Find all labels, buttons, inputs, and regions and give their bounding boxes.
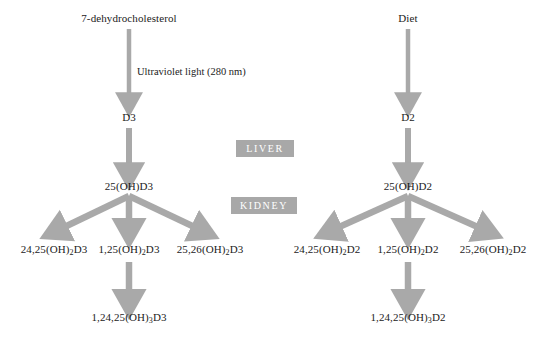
- node-2425oh2d3-sub: 2: [70, 248, 74, 257]
- node-12425oh3d2-suffix: D2: [432, 311, 446, 323]
- node-2526oh2d3: 25,26(OH)2D3: [177, 243, 244, 257]
- arrow-25ohd3-to-2425ohd3: [54, 196, 129, 232]
- node-d3: D3: [122, 111, 136, 124]
- node-125oh2d3-sub: 2: [142, 248, 146, 257]
- node-125oh2d2: 1,25(OH)2D2: [377, 243, 438, 257]
- node-2526oh2d3-prefix: 25,26(OH): [177, 243, 226, 255]
- node-d2: D2: [401, 111, 415, 124]
- arrow-25ohd2-to-2526ohd2: [408, 196, 489, 232]
- node-125oh2d3-prefix: 1,25(OH): [98, 243, 141, 255]
- node-125oh2d3-suffix: D3: [146, 243, 160, 255]
- arrow-25ohd2-to-2425ohd2: [328, 196, 408, 232]
- vitamin-d-pathway-diagram: 7-dehydrocholesterol Ultraviolet light (…: [0, 0, 537, 337]
- organ-box-kidney: KIDNEY: [231, 197, 297, 214]
- node-25ohd2: 25(OH)D2: [384, 180, 432, 193]
- node-2526oh2d2: 25,26(OH)2D2: [460, 243, 527, 257]
- node-2425oh2d2-sub: 2: [343, 248, 347, 257]
- node-12425oh3d3: 1,24,25(OH)3D3: [91, 311, 166, 325]
- node-125oh2d2-prefix: 1,25(OH): [377, 243, 420, 255]
- node-125oh2d2-sub: 2: [421, 248, 425, 257]
- node-2526oh2d2-suffix: D2: [513, 243, 527, 255]
- node-2526oh2d2-prefix: 25,26(OH): [460, 243, 509, 255]
- organ-box-liver: LIVER: [236, 140, 294, 157]
- node-2425oh2d2: 24,25(OH)2D2: [294, 243, 361, 257]
- node-12425oh3d2-prefix: 1,24,25(OH): [370, 311, 427, 323]
- annotation-ultraviolet-light: Ultraviolet light (280 nm): [137, 65, 246, 78]
- node-12425oh3d3-sub: 3: [149, 316, 153, 325]
- node-12425oh3d2-sub: 3: [428, 316, 432, 325]
- node-7-dehydrocholesterol: 7-dehydrocholesterol: [81, 12, 176, 25]
- node-2526oh2d3-sub: 2: [226, 248, 230, 257]
- node-12425oh3d2: 1,24,25(OH)3D2: [370, 311, 445, 325]
- arrow-25ohd3-to-2526ohd3: [129, 196, 205, 232]
- node-2425oh2d2-suffix: D2: [347, 243, 361, 255]
- arrow-layer: [0, 0, 537, 337]
- node-2425oh2d3: 24,25(OH)2D3: [21, 243, 88, 257]
- node-2425oh2d3-prefix: 24,25(OH): [21, 243, 70, 255]
- node-2526oh2d3-suffix: D3: [230, 243, 244, 255]
- node-2526oh2d2-sub: 2: [509, 248, 513, 257]
- node-12425oh3d3-prefix: 1,24,25(OH): [91, 311, 148, 323]
- node-2425oh2d3-suffix: D3: [74, 243, 88, 255]
- node-125oh2d2-suffix: D2: [425, 243, 439, 255]
- node-2425oh2d2-prefix: 24,25(OH): [294, 243, 343, 255]
- node-125oh2d3: 1,25(OH)2D3: [98, 243, 159, 257]
- node-12425oh3d3-suffix: D3: [153, 311, 167, 323]
- node-diet: Diet: [398, 12, 417, 25]
- node-25ohd3: 25(OH)D3: [105, 180, 153, 193]
